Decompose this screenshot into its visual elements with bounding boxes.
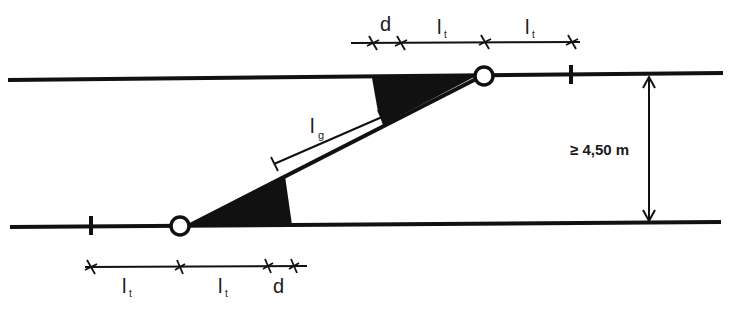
top-line bbox=[8, 73, 723, 80]
bottom-line bbox=[10, 222, 721, 227]
top-label-lt-2-base: l bbox=[525, 16, 529, 38]
bottom-label-d: d bbox=[273, 275, 284, 297]
diagonal-label-base: l bbox=[310, 115, 314, 137]
bottom-dimension-chain: l t l t d bbox=[85, 259, 307, 299]
top-label-d: d bbox=[380, 13, 391, 35]
top-wedge bbox=[372, 76, 476, 125]
top-dimension-chain: d l t l t bbox=[351, 13, 580, 50]
top-label-lt-1-sub: t bbox=[444, 29, 447, 40]
vertical-dimension: ≥ 4,50 m bbox=[570, 77, 655, 221]
bottom-label-lt-1-sub: t bbox=[129, 288, 132, 299]
bottom-node-circle bbox=[171, 217, 189, 235]
diagonal-dimension: l g bbox=[271, 110, 385, 171]
diagram-canvas: l g d l t l t l t l t d bbox=[0, 0, 730, 309]
bottom-label-lt-2-base: l bbox=[218, 275, 222, 297]
diagonal-line bbox=[188, 77, 480, 226]
diagonal-label-sub: g bbox=[318, 129, 324, 141]
top-node-circle bbox=[475, 67, 493, 85]
min-distance-label: ≥ 4,50 m bbox=[570, 141, 629, 158]
top-label-lt-1-base: l bbox=[437, 16, 441, 38]
top-label-lt-2-sub: t bbox=[532, 29, 535, 40]
bottom-label-lt-1-base: l bbox=[122, 275, 126, 297]
bottom-label-lt-2-sub: t bbox=[225, 288, 228, 299]
